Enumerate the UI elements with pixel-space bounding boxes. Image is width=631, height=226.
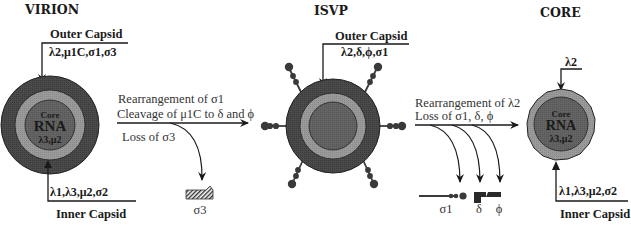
virion-rna-label: RNA [34, 118, 67, 134]
core-inner-capsid-label: Inner Capsid [560, 207, 630, 221]
sigma3-fragment-icon [186, 186, 213, 199]
isvp-particle [286, 79, 380, 173]
transition-virion-to-isvp: Rearrangement of σ1 Cleavage of μ1C to δ… [117, 92, 255, 217]
core-top-protein: λ2 [565, 55, 577, 69]
phi-label: ϕ [496, 202, 503, 216]
core-rna-label: RNA [546, 118, 577, 133]
virion-outer-capsid-label: Outer Capsid [50, 27, 122, 41]
isvp-outer-capsid-label: Outer Capsid [335, 29, 407, 43]
core-stage: CORE λ2 Core RNA λ3,μ2 λ1,λ3,μ2,σ2 Inner… [527, 5, 630, 221]
virion-stage: VIRION Outer Capsid λ2,μ1C,σ1,σ3 Core RN… [1, 2, 136, 221]
core-inner-arrowhead [552, 161, 560, 170]
transition1-line2: Cleavage of μ1C to δ and ϕ [117, 107, 255, 121]
core-core-proteins: λ3,μ2 [549, 133, 572, 144]
core-inner-proteins: λ1,λ3,μ2,σ2 [559, 184, 617, 198]
virion-inner-proteins: λ1,λ3,μ2,σ2 [50, 185, 108, 199]
phi-fragment-icon [486, 192, 501, 197]
virion-title: VIRION [24, 2, 79, 17]
isvp-outer-proteins: λ2,δ,ϕ,σ1 [341, 45, 388, 59]
sigma1-loss-arrow [430, 125, 460, 182]
virion-core-proteins: λ3,μ2 [38, 134, 61, 145]
transition1-line1: Rearrangement of σ1 [118, 92, 224, 106]
sigma1-label: σ1 [440, 202, 453, 216]
isvp-title: ISVP [314, 3, 349, 18]
transition1-loss: Loss of σ3 [122, 130, 175, 144]
transition-isvp-to-core: Rearrangement of λ2 Loss of σ1, δ, ϕ σ1 … [415, 96, 520, 216]
isvp-stage: ISVP Outer Capsid λ2,δ,ϕ,σ1 [262, 3, 409, 187]
reovirus-disassembly-diagram: VIRION Outer Capsid λ2,μ1C,σ1,σ3 Core RN… [0, 0, 631, 226]
virion-outer-proteins: λ2,μ1C,σ1,σ3 [49, 45, 116, 59]
virion-particle: Core RNA λ3,μ2 [1, 76, 99, 174]
phi-loss-arrow [472, 125, 500, 182]
sigma3-label: σ3 [194, 203, 207, 217]
core-title: CORE [540, 5, 581, 20]
core-particle: Core RNA λ3,μ2 [527, 89, 595, 160]
delta-label: δ [476, 202, 482, 216]
sigma1-fragment-icon [419, 192, 467, 199]
transition2-line2: Loss of σ1, δ, ϕ [415, 109, 494, 123]
transition2-line1: Rearrangement of λ2 [415, 96, 520, 110]
virion-inner-capsid-label: Inner Capsid [56, 207, 126, 221]
core-lambda2-pointer [561, 69, 582, 90]
